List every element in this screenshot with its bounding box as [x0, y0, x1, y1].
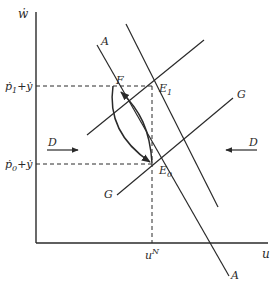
svg-text:uN: uN: [145, 247, 160, 262]
svg-text:E1: E1: [158, 82, 172, 97]
upper-level-label: ṗ1+ẏ: [5, 80, 33, 95]
point-e0-label: E0: [158, 164, 172, 179]
g-curve-upper: [87, 40, 204, 135]
a-label-bottom: A: [230, 269, 239, 282]
g-label-left: G: [104, 188, 113, 201]
a-label-top: A: [100, 35, 109, 48]
svg-text:ṗ1+ẏ: ṗ1+ẏ: [5, 80, 33, 95]
d-label-right: D: [248, 136, 258, 149]
lower-level-label: ṗ0+ẏ: [5, 158, 33, 173]
natural-rate-label: uN: [145, 247, 160, 262]
svg-text:E0: E0: [158, 164, 172, 179]
guide-lines: [36, 86, 152, 243]
svg-text:ṗ0+ẏ: ṗ0+ẏ: [5, 158, 33, 173]
x-axis-label: u: [262, 247, 270, 261]
point-f-label: F: [115, 74, 124, 87]
d-label-left: D: [47, 136, 57, 149]
point-e1-label: E1: [158, 82, 172, 97]
y-axis-label: ẇ: [18, 7, 29, 21]
g-label-right: G: [237, 88, 246, 101]
phillips-curve-diagram: ẇ u ṗ1+ẏ ṗ0+ẏ uN A A G G F E1 E0 D D: [0, 0, 275, 284]
